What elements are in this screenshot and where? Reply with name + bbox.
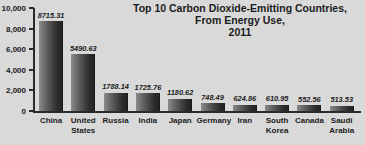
x-axis-category-label-line: Russia	[100, 116, 132, 126]
x-axis-category-label-line: Arabia	[326, 126, 358, 136]
x-axis-category-label: Iran	[229, 116, 261, 126]
x-axis-category-label-line: United	[67, 116, 99, 126]
x-axis-category-label: Japan	[164, 116, 196, 126]
bar[interactable]	[265, 105, 289, 111]
x-axis-category-label: Germany	[197, 116, 229, 126]
x-axis-category-label-line: Germany	[197, 116, 229, 126]
x-axis-category-label-line: India	[132, 116, 164, 126]
x-axis-category-label-line: Saudi	[326, 116, 358, 126]
x-axis-category-label: India	[132, 116, 164, 126]
bar-value-label: 624.86	[233, 94, 256, 103]
x-axis-category-label: SouthKorea	[261, 116, 293, 135]
bar[interactable]	[168, 99, 192, 111]
y-axis-tick-label: 10,000	[2, 4, 26, 13]
bar-column[interactable]: 552.56	[297, 8, 321, 111]
y-axis-tick-label: 8,000	[6, 24, 26, 33]
bar-column[interactable]: 748.49	[201, 8, 225, 111]
bar[interactable]	[297, 105, 321, 111]
x-axis-category-label-line: Korea	[261, 126, 293, 136]
x-axis-category-label: SaudiArabia	[326, 116, 358, 135]
x-axis-category-label-line: States	[67, 126, 99, 136]
x-axis-category-label-line: China	[35, 116, 67, 126]
bar-column[interactable]: 5490.63	[71, 8, 95, 111]
x-axis-category-label: UnitedStates	[67, 116, 99, 135]
x-axis-category-label: Russia	[100, 116, 132, 126]
bar-value-label: 8715.31	[38, 11, 65, 20]
y-axis-tick	[29, 89, 34, 91]
bar-value-label: 1725.76	[135, 83, 162, 92]
bar-column[interactable]: 1180.62	[168, 8, 192, 111]
bar-column[interactable]: 624.86	[233, 8, 257, 111]
bar-value-label: 1788.14	[102, 82, 129, 91]
bar-chart: Top 10 Carbon Dioxide-Emitting Countries…	[0, 0, 365, 145]
bar[interactable]	[330, 106, 354, 111]
y-axis-tick	[29, 69, 34, 71]
y-axis-tick	[29, 110, 34, 112]
bar[interactable]	[233, 105, 257, 111]
x-axis-category-label: China	[35, 116, 67, 126]
y-axis-tick	[29, 7, 34, 9]
bar-value-label: 610.95	[266, 94, 289, 103]
y-axis-tick	[29, 28, 34, 30]
bar[interactable]	[201, 103, 225, 111]
y-axis-tick-label: 4,000	[6, 65, 26, 74]
bar-column[interactable]: 610.95	[265, 8, 289, 111]
bar-value-label: 552.56	[298, 95, 321, 104]
bar-value-label: 5490.63	[70, 44, 97, 53]
bar[interactable]	[104, 93, 128, 111]
x-axis-category-label-line: Iran	[229, 116, 261, 126]
y-axis-tick-label: 0	[22, 107, 26, 116]
x-axis-category-labels: ChinaUnitedStatesRussiaIndiaJapanGermany…	[35, 116, 361, 144]
x-axis-line	[33, 111, 361, 113]
y-axis-tick-label: 6,000	[6, 45, 26, 54]
bars-group: 8715.315490.631788.141725.761180.62748.4…	[35, 8, 361, 111]
x-axis-category-label-line: South	[261, 116, 293, 126]
bar[interactable]	[136, 93, 160, 111]
x-axis-category-label: Canada	[293, 116, 325, 126]
bar-column[interactable]: 1725.76	[136, 8, 160, 111]
x-axis-category-label-line: Canada	[293, 116, 325, 126]
plot-area: 02,0004,0006,0008,00010,000 8715.315490.…	[33, 8, 361, 113]
bar-column[interactable]: 8715.31	[39, 8, 63, 111]
bar[interactable]	[39, 21, 63, 111]
bar[interactable]	[71, 54, 95, 111]
bar-value-label: 513.53	[330, 95, 353, 104]
x-axis-category-label-line: Japan	[164, 116, 196, 126]
y-axis-tick-label: 2,000	[6, 86, 26, 95]
bar-value-label: 748.49	[201, 93, 224, 102]
bar-column[interactable]: 513.53	[330, 8, 354, 111]
bar-value-label: 1180.62	[167, 88, 193, 97]
bar-column[interactable]: 1788.14	[104, 8, 128, 111]
y-axis-tick	[29, 48, 34, 50]
